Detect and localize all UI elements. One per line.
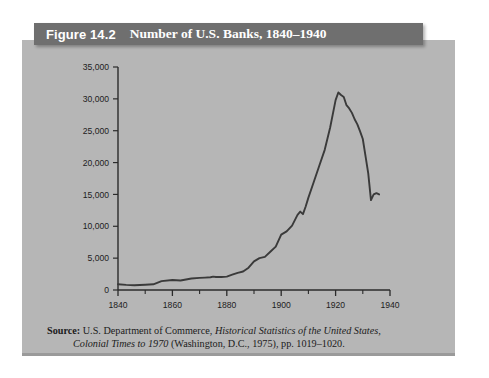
bank-count-line-chart: 05,00010,00015,00020,00025,00030,00035,0… <box>22 40 455 356</box>
source-note: Source: U.S. Department of Commerce, His… <box>47 324 427 350</box>
source-italic-1: Historical Statistics of the United Stat… <box>215 325 381 336</box>
x-axis: 184018601880190019201940 <box>108 290 399 310</box>
figure-container: Figure 14.2 Number of U.S. Banks, 1840–1… <box>0 0 489 378</box>
y-tick-label: 35,000 <box>83 62 110 72</box>
source-italic-2: Colonial Times to 1970 <box>73 338 168 349</box>
bank-count-line <box>118 92 379 285</box>
y-tick-label: 20,000 <box>83 158 110 168</box>
x-tick-label: 1880 <box>217 300 236 310</box>
source-text-2: (Washington, D.C., 1975), pp. 1019–1020. <box>168 338 344 349</box>
y-tick-label: 25,000 <box>83 126 110 136</box>
y-tick-label: 15,000 <box>83 190 110 200</box>
data-series-line <box>118 92 379 285</box>
y-axis: 05,00010,00015,00020,00025,00030,00035,0… <box>83 62 118 295</box>
x-tick-label: 1860 <box>163 300 182 310</box>
y-tick-label: 0 <box>104 285 109 295</box>
x-tick-label: 1840 <box>108 300 127 310</box>
x-tick-label: 1940 <box>380 300 399 310</box>
source-line-2: Colonial Times to 1970 (Washington, D.C.… <box>47 337 427 350</box>
y-tick-label: 5,000 <box>87 253 109 263</box>
x-tick-label: 1900 <box>272 300 291 310</box>
y-tick-label: 30,000 <box>83 94 110 104</box>
y-tick-label: 10,000 <box>83 221 110 231</box>
source-label: Source: <box>47 325 80 336</box>
x-tick-label: 1920 <box>326 300 345 310</box>
source-text-1: U.S. Department of Commerce, <box>80 325 215 336</box>
chart-plot-area: 05,00010,00015,00020,00025,00030,00035,0… <box>22 40 455 356</box>
